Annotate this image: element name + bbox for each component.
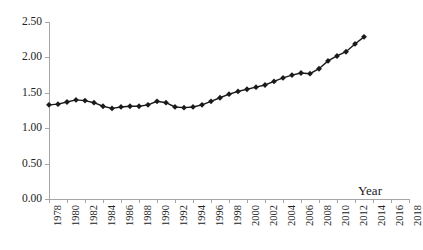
data-point-marker [199, 102, 205, 108]
data-point-marker [280, 75, 286, 81]
data-point-marker [181, 105, 187, 111]
data-point-marker [46, 102, 52, 108]
data-point-marker [118, 104, 124, 110]
data-point-marker [217, 95, 223, 101]
data-point-marker [55, 101, 61, 107]
data-point-marker [145, 102, 151, 108]
data-point-marker [64, 99, 70, 105]
data-point-marker [271, 79, 277, 85]
data-point-marker [136, 103, 142, 109]
data-point-marker [154, 98, 160, 104]
data-point-marker [334, 53, 340, 59]
data-point-marker [226, 91, 232, 97]
data-point-marker [190, 104, 196, 110]
series-line [49, 37, 364, 109]
data-point-marker [127, 103, 133, 109]
line-chart: 0.000.501.001.502.002.50 197819801982198… [0, 0, 423, 250]
data-point-marker [244, 86, 250, 92]
series-markers [46, 34, 367, 111]
data-point-marker [298, 70, 304, 76]
data-point-marker [235, 88, 241, 94]
data-point-marker [109, 105, 115, 111]
data-point-marker [307, 71, 313, 77]
data-point-marker [91, 100, 97, 106]
data-point-marker [163, 100, 169, 106]
data-series [0, 0, 423, 250]
data-point-marker [82, 98, 88, 104]
data-point-marker [172, 104, 178, 110]
data-point-marker [208, 98, 214, 104]
data-point-marker [100, 103, 106, 109]
data-point-marker [253, 84, 259, 90]
data-point-marker [289, 72, 295, 78]
data-point-marker [73, 97, 79, 103]
data-point-marker [262, 82, 268, 88]
